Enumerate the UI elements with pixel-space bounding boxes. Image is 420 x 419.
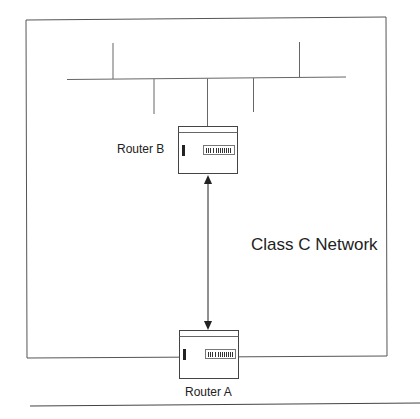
network-label: Class C Network <box>251 235 378 255</box>
network-diagram <box>0 0 420 419</box>
bottom-rule <box>30 403 420 406</box>
router-b-icon <box>179 127 238 174</box>
router-b-label: Router B <box>117 142 164 156</box>
bidirectional-arrow-icon <box>204 175 212 330</box>
network-bus <box>67 77 346 80</box>
router-a-icon <box>180 331 239 379</box>
router-a-label: Router A <box>185 385 232 399</box>
network-boundary <box>26 17 387 358</box>
